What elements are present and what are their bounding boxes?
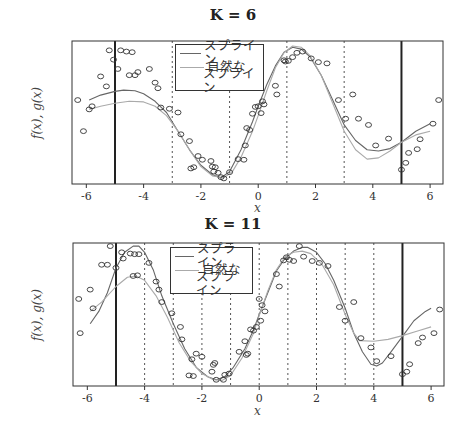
y-axis-label: f(x), g(x): [30, 280, 44, 350]
data-point: [123, 49, 129, 54]
data-point: [274, 92, 280, 97]
data-point: [296, 244, 302, 249]
data-point: [99, 262, 105, 267]
data-point: [186, 139, 192, 144]
chart-panel-k6: K = 6 -6-4-20246 f(x), g(x) x スプライン 自然な …: [0, 0, 466, 218]
data-point: [262, 309, 268, 314]
legend-entry-spline: スプライン: [175, 249, 248, 263]
data-point: [126, 73, 132, 78]
x-axis-label: x: [254, 404, 261, 418]
data-point: [343, 116, 349, 121]
x-tick-label: -2: [197, 392, 208, 405]
data-point: [351, 300, 357, 305]
data-point: [103, 84, 109, 89]
data-point: [414, 147, 420, 152]
x-tick-label: 4: [369, 190, 376, 203]
data-point: [152, 80, 158, 85]
data-point: [431, 331, 437, 336]
legend-label: スプライン: [196, 270, 248, 298]
data-point: [404, 369, 410, 374]
plot-frame: [73, 243, 444, 386]
data-point: [301, 254, 307, 259]
data-point: [75, 98, 81, 103]
data-point: [236, 349, 242, 354]
data-point: [129, 50, 135, 55]
data-point: [437, 307, 443, 312]
data-point: [258, 318, 264, 323]
data-point: [315, 60, 321, 65]
legend-line-light: [180, 67, 204, 68]
data-point: [77, 331, 83, 336]
data-point: [177, 325, 183, 330]
data-point: [436, 98, 442, 103]
data-point: [106, 48, 112, 53]
x-tick-label: -6: [81, 190, 92, 203]
data-point: [118, 48, 124, 53]
data-point: [98, 74, 104, 79]
data-point: [415, 341, 421, 346]
data-point: [373, 143, 379, 148]
data-point: [146, 67, 152, 72]
data-point: [199, 157, 205, 162]
data-point: [208, 159, 214, 164]
legend-entry-continuation: スプライン: [175, 277, 248, 291]
x-tick-label: 4: [370, 392, 377, 405]
x-axis-label: x: [254, 201, 261, 215]
x-tick-label: -2: [196, 190, 207, 203]
x-tick-label: -4: [138, 190, 149, 203]
legend-line-dark: [180, 53, 201, 54]
legend: スプライン 自然な スプライン: [175, 44, 264, 91]
x-tick-label: 2: [313, 392, 320, 405]
chart-panel-k11: K = 11 -6-4-20246 f(x), g(x) x スプライン 自然な…: [0, 218, 466, 437]
x-tick-label: 6: [428, 392, 435, 405]
data-point: [119, 250, 125, 255]
data-point: [366, 123, 372, 128]
data-point: [190, 374, 196, 379]
data-point: [316, 260, 322, 265]
data-point: [136, 252, 142, 257]
data-point: [241, 157, 247, 162]
x-tick-label: -6: [82, 392, 93, 405]
legend-label: スプライン: [203, 67, 259, 95]
y-axis-label: f(x), g(x): [30, 78, 44, 148]
data-point: [245, 351, 251, 356]
data-point: [272, 83, 278, 88]
data-point: [193, 351, 199, 356]
data-point: [420, 335, 426, 340]
data-point: [403, 160, 409, 165]
data-point: [350, 92, 356, 97]
data-point: [76, 297, 82, 302]
data-point: [90, 306, 96, 311]
data-point: [406, 151, 412, 156]
data-point: [430, 121, 436, 126]
data-point: [169, 311, 175, 316]
data-point: [417, 137, 423, 142]
data-point: [107, 244, 113, 249]
x-tick-label: 6: [427, 190, 434, 203]
data-point: [386, 136, 392, 141]
data-point: [242, 339, 248, 344]
data-point: [358, 336, 364, 341]
legend: スプライン 自然な スプライン: [170, 247, 253, 294]
data-point: [290, 55, 296, 60]
plot-area: -6-4-20246: [0, 0, 466, 218]
legend-line-light: [175, 270, 199, 271]
data-point: [179, 337, 185, 342]
data-point: [276, 284, 282, 289]
data-point: [368, 345, 374, 350]
data-point: [243, 353, 249, 358]
data-point: [336, 305, 342, 310]
legend-line-dark: [175, 256, 194, 257]
data-point: [155, 86, 161, 91]
data-point: [209, 369, 215, 374]
x-tick-label: 2: [312, 190, 319, 203]
legend-entry-spline: スプライン: [180, 46, 259, 60]
data-point: [294, 50, 300, 55]
data-point: [388, 354, 394, 359]
data-point: [355, 116, 361, 121]
data-point: [324, 61, 330, 66]
x-tick-label: -4: [139, 392, 150, 405]
data-point: [374, 359, 380, 364]
data-point: [335, 98, 341, 103]
data-point: [87, 287, 93, 292]
